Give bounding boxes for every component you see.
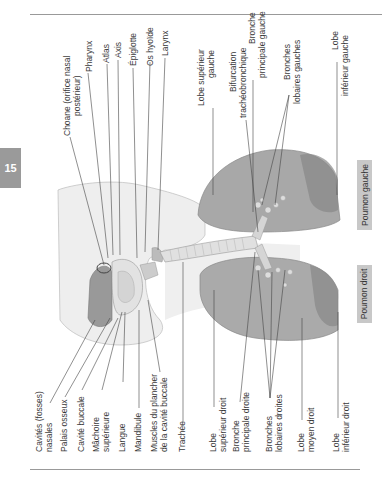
label-lobe-moyen-droit: Lobemoyen droit xyxy=(296,408,316,452)
label-lobe-sup-droit: Lobesupérieur droit xyxy=(208,398,228,452)
label-bronche-princ-gauche: Broncheprincipale gauche xyxy=(247,11,267,78)
label-atlas: Atlas xyxy=(101,44,111,63)
label-lobe-inf-gauche: Lobeinférieur gauche xyxy=(330,31,350,96)
label-pharynx: Pharynx xyxy=(84,41,94,72)
label-choane: Choane (orifice nasalpostérieur) xyxy=(62,56,82,136)
label-axis: Axis xyxy=(113,42,123,58)
label-trachee: Trachée xyxy=(177,421,187,452)
label-cavite-buccale: Cavité buccale xyxy=(76,396,86,452)
left-lung-box: Poumon gauche xyxy=(357,160,372,230)
label-epiglotte: Épiglotte xyxy=(128,33,138,66)
label-palais-osseux: Palais osseux xyxy=(59,400,69,452)
label-bronches-lob-gauches: Broncheslobaires gauches xyxy=(282,40,302,104)
label-muscles-plancher: Muscles du plancherde la cavité buccale xyxy=(149,374,169,452)
right-lung-box: Poumon droit xyxy=(357,265,372,323)
label-bronche-princ-droite: Broncheprincipale droite xyxy=(231,392,251,452)
label-lobe-inf-droit: Lobeinférieur droit xyxy=(331,402,351,452)
label-lobe-sup-gauche: Lobe supérieurgauche xyxy=(196,49,216,106)
label-langue: Langue xyxy=(117,424,127,452)
label-os-hyoide: Os hyoïde xyxy=(145,27,155,66)
label-machoire-sup: Mâchoiresupérieure xyxy=(91,412,111,452)
label-larynx: Larynx xyxy=(160,30,170,56)
label-cavites-nasales: Cavités (fosses)nasales xyxy=(34,391,54,452)
label-bifurcation: Bifurcationtrachéobronchique xyxy=(228,48,248,118)
label-mandibule: Mandibule xyxy=(133,413,143,452)
label-bronches-lob-droites: Broncheslobaires droites xyxy=(264,394,284,452)
